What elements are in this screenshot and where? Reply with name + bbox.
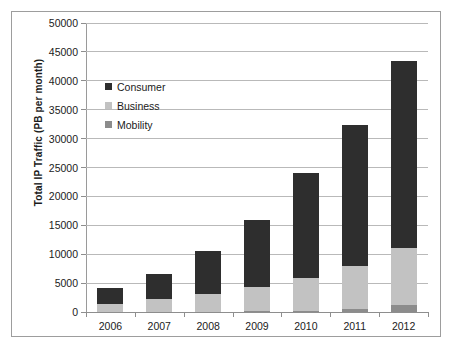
bar-stack-2011[interactable] xyxy=(342,23,368,312)
bar-segment-business-2008[interactable] xyxy=(195,294,221,312)
y-tick-10000 xyxy=(81,254,86,255)
plot-inner: 0500010000150002000025000300003500040000… xyxy=(86,23,428,312)
bar-stack-2006[interactable] xyxy=(97,23,123,312)
y-tick-40000 xyxy=(81,80,86,81)
y-tick-20000 xyxy=(81,196,86,197)
x-tick xyxy=(184,312,185,317)
y-tick-15000 xyxy=(81,225,86,226)
y-tick-5000 xyxy=(81,283,86,284)
x-tick xyxy=(233,312,234,317)
y-tick-30000 xyxy=(81,138,86,139)
x-tick xyxy=(379,312,380,317)
bar-segment-consumer-2010[interactable] xyxy=(293,173,319,278)
legend-item-consumer[interactable]: Consumer xyxy=(105,78,165,95)
bar-segment-business-2011[interactable] xyxy=(342,266,368,309)
bar-segment-consumer-2007[interactable] xyxy=(146,274,172,300)
bar-segment-business-2010[interactable] xyxy=(293,278,319,311)
bar-segment-consumer-2006[interactable] xyxy=(97,288,123,304)
x-axis-label-2006: 2006 xyxy=(99,320,122,332)
bar-stack-2008[interactable] xyxy=(195,23,221,312)
bar-stack-2009[interactable] xyxy=(244,23,270,312)
bar-segment-mobility-2012[interactable] xyxy=(391,305,417,312)
x-axis-label-2007: 2007 xyxy=(148,320,171,332)
y-axis-tick-label: 50000 xyxy=(49,17,78,29)
legend-item-mobility[interactable]: Mobility xyxy=(105,116,165,133)
bar-segment-mobility-2011[interactable] xyxy=(342,309,368,312)
x-axis-label-2012: 2012 xyxy=(392,320,415,332)
bar-stack-2010[interactable] xyxy=(293,23,319,312)
y-tick-35000 xyxy=(81,109,86,110)
chart-figure-frame: Total IP Traffic (PB per month) 05000100… xyxy=(11,11,441,337)
y-axis-tick-label: 10000 xyxy=(49,248,78,260)
y-axis-tick-label: 0 xyxy=(72,306,78,318)
bar-segment-consumer-2009[interactable] xyxy=(244,220,270,288)
y-axis-tick-label: 45000 xyxy=(49,46,78,58)
legend-swatch-icon xyxy=(105,121,112,128)
bar-segment-business-2012[interactable] xyxy=(391,248,417,305)
x-tick xyxy=(86,312,87,317)
legend-item-business[interactable]: Business xyxy=(105,97,165,114)
bar-segment-mobility-2010[interactable] xyxy=(293,311,319,312)
x-tick xyxy=(428,312,429,317)
plot-area: 0500010000150002000025000300003500040000… xyxy=(86,23,428,312)
y-axis-tick-label: 30000 xyxy=(49,133,78,145)
bar-segment-consumer-2012[interactable] xyxy=(391,61,417,248)
y-axis-title: Total IP Traffic (PB per month) xyxy=(33,28,44,238)
x-axis-label-2010: 2010 xyxy=(294,320,317,332)
legend-label: Mobility xyxy=(117,119,153,131)
bar-segment-business-2007[interactable] xyxy=(146,299,172,311)
y-tick-45000 xyxy=(81,51,86,52)
bar-segment-consumer-2011[interactable] xyxy=(342,125,368,266)
x-axis-label-2011: 2011 xyxy=(343,320,366,332)
y-axis-tick-label: 5000 xyxy=(55,277,78,289)
x-tick xyxy=(135,312,136,317)
y-axis-tick-label: 25000 xyxy=(49,162,78,174)
y-axis-tick-label: 40000 xyxy=(49,75,78,87)
bar-segment-business-2009[interactable] xyxy=(244,287,270,311)
legend-swatch-icon xyxy=(105,83,112,90)
bar-segment-consumer-2008[interactable] xyxy=(195,251,221,294)
x-axis-label-2009: 2009 xyxy=(245,320,268,332)
legend-label: Consumer xyxy=(117,81,165,93)
y-tick-25000 xyxy=(81,167,86,168)
x-tick xyxy=(330,312,331,317)
bar-segment-business-2006[interactable] xyxy=(97,304,123,312)
y-tick-50000 xyxy=(81,23,86,24)
bar-stack-2012[interactable] xyxy=(391,23,417,312)
y-axis-tick-label: 15000 xyxy=(49,219,78,231)
bar-stack-2007[interactable] xyxy=(146,23,172,312)
legend-swatch-icon xyxy=(105,102,112,109)
y-axis-tick-label: 35000 xyxy=(49,104,78,116)
chart-legend: ConsumerBusinessMobility xyxy=(105,78,165,135)
legend-label: Business xyxy=(117,100,160,112)
bar-segment-mobility-2009[interactable] xyxy=(244,311,270,312)
x-tick xyxy=(281,312,282,317)
x-axis-label-2008: 2008 xyxy=(196,320,219,332)
y-axis-tick-label: 20000 xyxy=(49,190,78,202)
